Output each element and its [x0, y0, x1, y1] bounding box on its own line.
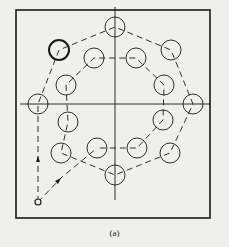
outer-hole: [161, 40, 181, 60]
direction-arrow-icon: [36, 156, 40, 162]
tool-path-diagram: [0, 0, 229, 247]
direction-arrow-icon: [55, 178, 61, 184]
inner-hole: [51, 143, 71, 163]
start-point: [35, 199, 41, 205]
figure-caption: (a): [0, 228, 229, 238]
tool-path-2: [38, 148, 97, 202]
inner-hole: [126, 48, 146, 68]
frame: [16, 10, 210, 218]
outer-hole: [160, 143, 180, 163]
